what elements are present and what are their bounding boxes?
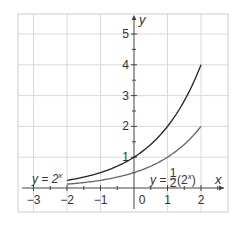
- chart: −3−2−101212345 x y y = 2x y = 1 2 (2x): [0, 0, 239, 228]
- x-tick-label: −1: [94, 193, 108, 207]
- x-tick-label: 1: [164, 193, 171, 207]
- x-tick-label: 2: [198, 193, 205, 207]
- y-tick-label: 3: [122, 89, 129, 103]
- y-tick-label: 5: [122, 27, 129, 41]
- svg-text:(2x): (2x): [177, 172, 196, 187]
- y-tick-label: 4: [122, 58, 129, 72]
- x-tick-label: 0: [139, 193, 146, 207]
- x-axis-label: x: [214, 172, 222, 187]
- y-tick-label: 2: [122, 119, 129, 133]
- svg-text:2: 2: [170, 176, 177, 190]
- svg-text:y =: y =: [149, 173, 166, 187]
- x-tick-label: −2: [60, 193, 74, 207]
- x-tick-label: −3: [27, 193, 41, 207]
